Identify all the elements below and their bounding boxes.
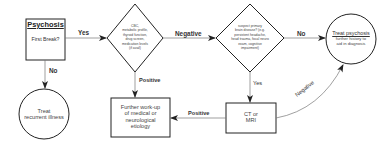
edge-negative-ct	[276, 65, 343, 118]
first-break-question: First Break?	[26, 37, 65, 43]
edge-label-positive-ct: Positive	[188, 110, 209, 116]
edge-label-positive-labs: Positive	[139, 77, 160, 83]
treat-psychosis-line: aid in diagnosis	[326, 41, 376, 46]
edge-label-yes: Yes	[78, 29, 89, 36]
edge-label-no-recurrent: No	[49, 67, 58, 74]
treat-recurrent-line: recurrent illness	[19, 114, 69, 120]
treat-psychosis-node-text: Treat psychosis further history to aid i…	[326, 30, 376, 46]
ct-mri-line: MRI	[226, 117, 276, 123]
treat-recurrent-node-text: Treat recurrent illness	[19, 108, 69, 121]
further-workup-node-text: Further work-up of medical or neurologic…	[111, 104, 170, 130]
ct-mri-node-text: CT or MRI	[226, 111, 276, 124]
edge-label-yes-brain: Yes	[253, 80, 262, 86]
further-workup-line: etiology	[111, 123, 170, 129]
labs-line: (if avail)	[115, 46, 155, 50]
psychosis-node: Psychosis First Break?	[26, 21, 65, 42]
labs-node-text: CBC, metabolic profile, thyroid function…	[115, 24, 155, 50]
primary-brain-line: impairment)	[226, 46, 274, 50]
primary-brain-line: head trauma, focal neuro	[226, 37, 274, 41]
edge-label-negative-labs: Negative	[175, 30, 202, 37]
primary-brain-node-text: suspect primary brain disease? (e.g. per…	[226, 24, 274, 50]
psychosis-title: Psychosis	[26, 21, 65, 30]
edge-label-no-brain: No	[297, 30, 306, 37]
